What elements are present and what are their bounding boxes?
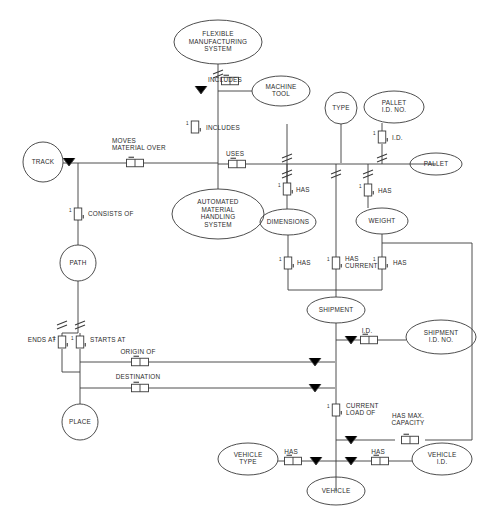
mandatory-marker (195, 86, 207, 94)
entity-label-fms: MANUFACTURING (189, 38, 247, 45)
entity-label-amhs: SYSTEM (204, 221, 231, 228)
entity-pallet_id_no[interactable]: PALLETI.D. NO. (364, 91, 424, 123)
uniqueness-marker (57, 321, 67, 329)
predicate-box-has_id (378, 131, 386, 143)
predicate-shipment_id[interactable] (361, 334, 378, 344)
cardinality-one: 1 (327, 404, 330, 409)
entity-label-shipment_id_no: I.D. NO. (429, 336, 454, 343)
predicate-box-current_load_of (332, 404, 340, 416)
predicate-moves_material_over[interactable] (127, 157, 144, 167)
predicate-label-has_type: HAS (296, 186, 310, 193)
entity-type[interactable]: TYPE (325, 92, 357, 124)
predicate-has_id[interactable]: 1 (373, 131, 387, 144)
entity-vehicle_id[interactable]: VEHICLEI.D. (412, 443, 472, 475)
entity-label-vehicle_type: TYPE (239, 458, 257, 465)
entity-path[interactable]: PATH (60, 245, 96, 281)
cardinality-one: 1 (373, 131, 376, 136)
entity-fms[interactable]: FLEXIBLEMANUFACTURINGSYSTEM (174, 20, 262, 64)
predicate-label-has_max_capacity: HAS MAX. (392, 412, 424, 419)
predicate-box-has_current (332, 257, 340, 269)
entity-label-vehicle_id: VEHICLE (428, 451, 457, 458)
predicate-label-destination: DESTINATION (116, 373, 161, 380)
entity-label-vehicle: VEHICLE (322, 487, 351, 494)
predicate-has_type[interactable]: 1 (278, 183, 292, 196)
entity-label-amhs: MATERIAL (201, 206, 234, 213)
cardinality-one: 1 (71, 336, 74, 341)
entity-label-weight: WEIGHT (369, 217, 396, 224)
connector-lines (62, 64, 472, 491)
cardinality-one: 1 (278, 183, 281, 188)
predicate-label-has_dimensions: HAS (297, 259, 311, 266)
entity-weight[interactable]: WEIGHT (356, 208, 408, 234)
predicate-label-includes_machine_tool: INCLUDES (208, 76, 242, 83)
predicate-label-shipment_id: I.D. (362, 327, 373, 334)
predicate-label-moves_material_over: MOVES (112, 137, 136, 144)
entity-shipment_id_no[interactable]: SHIPMENTI.D. NO. (406, 320, 476, 354)
predicate-label-includes_amhs: INCLUDES (206, 124, 240, 131)
cardinality-one: 1 (359, 184, 362, 189)
entity-place[interactable]: PLACE (62, 404, 98, 440)
entity-label-pallet_id_no: I.D. NO. (382, 106, 407, 113)
predicate-label-has_current: HAS (345, 255, 359, 262)
predicate-consists_of[interactable]: 1 (69, 208, 83, 221)
predicate-label-current_load_of: LOAD OF (346, 409, 375, 416)
predicate-starts_at[interactable]: 1 (71, 336, 85, 349)
entity-vehicle_type[interactable]: VEHICLETYPE (218, 443, 278, 475)
cardinality-one: 1 (186, 121, 189, 126)
entity-label-vehicle_type: VEHICLE (234, 451, 263, 458)
entity-label-fms: SYSTEM (204, 45, 231, 52)
predicate-includes_amhs[interactable]: 1 (186, 121, 200, 134)
predicate-box-ends_at (58, 336, 66, 348)
entity-track[interactable]: TRACK (23, 142, 63, 182)
entity-label-path: PATH (70, 259, 87, 266)
uniqueness-marker (75, 321, 85, 329)
entity-machine_tool[interactable]: MACHINETOOL (252, 76, 310, 106)
predicate-box-has_weight_2 (378, 257, 386, 269)
predicate-box-has_type (283, 183, 291, 195)
entity-label-shipment_id_no: SHIPMENT (424, 329, 459, 336)
line-dim-to-shipment (288, 269, 336, 290)
predicate-current_load_of[interactable]: 1 (327, 404, 341, 417)
cardinality-one: 1 (69, 208, 72, 213)
cardinality-one: 1 (279, 257, 282, 262)
entity-label-dimensions: DIMENSIONS (267, 218, 309, 225)
predicate-label-consists_of: CONSISTS OF (88, 210, 134, 217)
predicate-destination[interactable] (132, 382, 149, 392)
predicate-label-origin_of: ORIGIN OF (120, 348, 155, 355)
predicate-has_weight[interactable]: 1 (359, 184, 373, 197)
predicate-uses[interactable] (229, 158, 246, 168)
predicate-label-current_load_of: CURRENT (346, 402, 379, 409)
entity-label-machine_tool: TOOL (272, 90, 290, 97)
diagram-canvas: FLEXIBLEMANUFACTURINGSYSTEMMACHINETOOLTR… (0, 0, 494, 529)
mandatory-marker (63, 158, 75, 166)
er-diagram-svg: FLEXIBLEMANUFACTURINGSYSTEMMACHINETOOLTR… (0, 0, 494, 529)
entity-layer: FLEXIBLEMANUFACTURINGSYSTEMMACHINETOOLTR… (23, 20, 476, 505)
line-endsat-bottom (62, 349, 80, 372)
entity-amhs[interactable]: AUTOMATEDMATERIALHANDLINGSYSTEM (172, 189, 264, 239)
entity-shipment[interactable]: SHIPMENT (307, 297, 365, 323)
entity-dimensions[interactable]: DIMENSIONS (260, 209, 316, 235)
predicate-origin_of[interactable] (132, 356, 149, 366)
predicate-has_max_capacity[interactable] (402, 434, 419, 444)
predicate-label-ends_at: ENDS AT (28, 336, 56, 343)
cardinality-one: 1 (327, 257, 330, 262)
predicate-label-starts_at: STARTS AT (90, 336, 126, 343)
predicate-has_vehicle_id[interactable] (372, 455, 389, 465)
predicate-box-has_weight (364, 184, 372, 196)
predicate-label-has_current: CURRENT (345, 262, 378, 269)
predicate-label-moves_material_over: MATERIAL OVER (112, 144, 166, 151)
entity-label-vehicle_id: I.D. (437, 458, 448, 465)
predicate-label-has_id: I.D. (392, 134, 403, 141)
entity-label-amhs: AUTOMATED (197, 198, 239, 205)
entity-label-track: TRACK (32, 158, 55, 165)
line-right-outer (382, 243, 472, 440)
entity-label-fms: FLEXIBLE (202, 30, 233, 37)
predicate-label-has_weight_2: HAS (393, 259, 407, 266)
entity-label-machine_tool: MACHINE (266, 83, 297, 90)
predicate-has_current[interactable]: 1 (327, 257, 341, 270)
predicate-label-has_weight: HAS (378, 187, 392, 194)
predicate-has_dimensions[interactable]: 1 (279, 257, 293, 270)
predicate-box-includes_amhs (191, 121, 199, 133)
predicate-box-has_dimensions (284, 257, 292, 269)
predicate-has_vehicle_type[interactable] (285, 455, 302, 465)
